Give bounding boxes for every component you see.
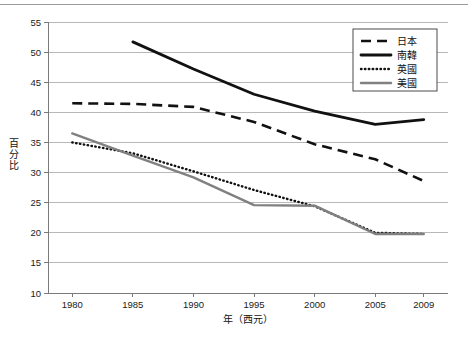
y-tick-label: 35	[30, 137, 41, 148]
y-tick-label: 50	[30, 47, 41, 58]
y-tick-label: 40	[30, 107, 41, 118]
x-axis-ticks: 1980198519901995200020052009	[62, 293, 435, 310]
x-tick-label: 1990	[183, 299, 204, 310]
legend-box	[353, 29, 437, 91]
x-tick-label: 2005	[365, 299, 386, 310]
legend-label-4: 美國	[397, 77, 417, 89]
y-tick-label: 15	[30, 257, 41, 268]
x-tick-label: 1995	[243, 299, 264, 310]
chart-legend: 日本南韓英國美國	[353, 29, 437, 91]
x-tick-label: 2000	[304, 299, 325, 310]
y-tick-label: 10	[30, 288, 41, 299]
y-tick-label: 20	[30, 227, 41, 238]
x-tick-label: 1980	[62, 299, 83, 310]
y-tick-label: 55	[30, 17, 41, 28]
y-tick-label: 25	[30, 197, 41, 208]
chart-figure: 圖一 日、韓、英、美四國製造業就業人口占全國就業人口比率變化 101520253…	[0, 0, 468, 339]
y-tick-label: 30	[30, 167, 41, 178]
y-tick-label: 45	[30, 77, 41, 88]
x-tick-label: 1985	[122, 299, 143, 310]
y-axis-title: 百分比	[9, 138, 19, 171]
legend-label-3: 英國	[397, 63, 417, 75]
legend-label-1: 日本	[397, 35, 417, 47]
line-chart: 10152025303540455055 1980198519901995200…	[0, 0, 468, 339]
y-axis-ticks: 10152025303540455055	[30, 17, 48, 299]
legend-label-2: 南韓	[397, 49, 417, 61]
x-tick-label: 2009	[413, 299, 434, 310]
x-axis-title: 年（西元）	[223, 313, 273, 325]
